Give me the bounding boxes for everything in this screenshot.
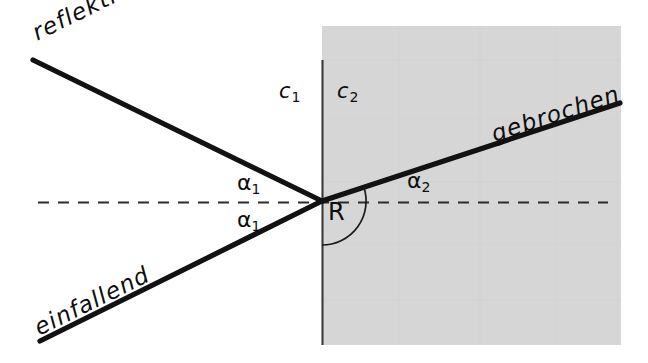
medium2-speed-subscript: 2	[350, 89, 359, 105]
angle-incidence-label: α1	[237, 207, 260, 234]
medium2-speed-symbol: c	[337, 79, 349, 103]
medium1-speed-label: c1	[279, 79, 300, 105]
interface-point-label: R	[328, 198, 345, 226]
medium2-speed-label: c2	[337, 79, 358, 105]
angle-reflection-symbol: α	[237, 170, 252, 195]
angle-refraction-label: α2	[407, 168, 430, 195]
angle-refraction-symbol: α	[407, 168, 422, 193]
refraction-diagram: reflektiert einfallend gebrochen c1 c2 α…	[0, 0, 648, 363]
angle-refraction-subscript: 2	[422, 179, 431, 195]
medium1-speed-subscript: 1	[292, 89, 301, 105]
medium1-speed-symbol: c	[279, 79, 291, 103]
angle-reflection-subscript: 1	[252, 181, 261, 197]
angle-incidence-subscript: 1	[252, 218, 261, 234]
angle-incidence-symbol: α	[237, 207, 252, 232]
angle-reflection-label: α1	[237, 170, 260, 197]
